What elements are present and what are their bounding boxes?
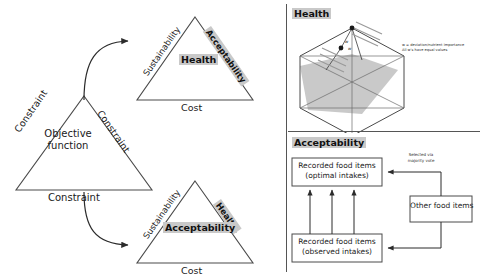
health-legend-note: w = deviation/nutrient importance All w'…: [402, 43, 464, 53]
main-constraint-bottom-label: Constraint: [48, 192, 100, 203]
bottom-cost-label: Cost: [181, 265, 202, 276]
objective-function-label: Objective function: [36, 128, 100, 152]
box-observed-intakes-label: Recorded food items (observed intakes): [292, 237, 382, 256]
arrow-to-top-triangle: [84, 41, 128, 100]
hexagon-w-annotation-1: w: [345, 39, 348, 44]
hexagon-point-upper: [350, 26, 355, 31]
box-other-food-items-label: Other food items: [410, 201, 472, 210]
health-hexagon-graphics: [286, 18, 482, 133]
acceptability-section-header: Acceptability: [292, 137, 366, 148]
health-legend-line2: All w's have equal values: [402, 48, 464, 53]
top-cost-label: Cost: [181, 102, 202, 113]
figure-canvas: Objective function Constraint Constraint…: [0, 0, 482, 276]
bottom-acceptability-label: Acceptability: [163, 222, 237, 233]
top-health-label: Health: [179, 54, 218, 65]
hexagon-w-annotation-2: w: [348, 46, 351, 51]
health-acceptability-divider: [288, 131, 480, 132]
box-optimal-intakes-label: Recorded food items (optimal intakes): [292, 161, 382, 180]
majority-vote-annotation: Selected via majority vote: [397, 152, 445, 163]
hexagon-point-lower: [339, 46, 344, 51]
